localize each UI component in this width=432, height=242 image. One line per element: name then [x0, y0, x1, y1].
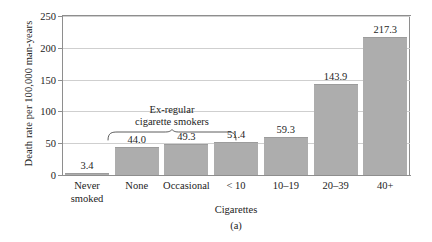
x-tick-never-smoked-line1: Never	[65, 180, 109, 193]
bar-none[interactable]	[115, 147, 159, 175]
bar-10-19[interactable]	[264, 137, 308, 175]
plot-area: 3.4 44.0 49.3 51.4 59.3 143.9	[62, 16, 410, 175]
x-tick-occasional: Occasional	[160, 180, 212, 193]
x-tick-10-19-line1: 10–19	[264, 180, 308, 193]
x-tick-10-19: 10–19	[264, 180, 308, 193]
x-tick-under-10: < 10	[214, 180, 258, 193]
x-tick-none-line1: None	[115, 180, 159, 193]
x-tick-none: None	[115, 180, 159, 193]
y-tick-label-0: 0	[16, 170, 56, 181]
ex-regular-smokers-label-line2: cigarette smokers	[106, 116, 238, 128]
y-tick-label-50: 50	[16, 138, 56, 149]
y-tick-label-200: 200	[16, 42, 56, 53]
bar-slot-10-19: 59.3	[264, 16, 308, 175]
x-tick-40-plus: 40+	[363, 180, 407, 193]
bar-under-10[interactable]	[214, 142, 258, 175]
x-tick-never-smoked: Never smoked	[65, 180, 109, 205]
curly-brace-icon	[106, 129, 238, 141]
bar-40-plus[interactable]	[363, 37, 407, 175]
bar-slot-never-smoked: 3.4	[65, 16, 109, 175]
x-tick-20-39: 20–39	[314, 180, 358, 193]
bar-value-never-smoked: 3.4	[80, 160, 93, 171]
bar-chart-figure: Death rate per 100,000 man-years 250 200…	[0, 0, 432, 242]
ex-regular-smokers-label-line1: Ex-regular	[106, 104, 238, 116]
y-tick-label-250: 250	[16, 11, 56, 22]
x-axis-line	[62, 175, 411, 176]
bar-never-smoked[interactable]	[65, 173, 109, 175]
figure-caption: (a)	[62, 220, 410, 231]
bar-series: 3.4 44.0 49.3 51.4 59.3 143.9	[62, 16, 410, 175]
x-tick-20-39-line1: 20–39	[314, 180, 358, 193]
x-tick-under-10-line1: < 10	[214, 180, 258, 193]
bar-slot-occasional: 49.3	[164, 16, 208, 175]
x-axis-title: Cigarettes	[62, 204, 410, 215]
bar-occasional[interactable]	[164, 144, 208, 175]
bar-slot-none: 44.0	[115, 16, 159, 175]
bar-20-39[interactable]	[314, 84, 358, 176]
y-axis-title: Death rate per 100,000 man-years	[23, 4, 34, 184]
x-tick-occasional-line1: Occasional	[160, 180, 212, 193]
y-tick-label-150: 150	[16, 74, 56, 85]
bar-value-20-39: 143.9	[324, 71, 348, 82]
bar-slot-20-39: 143.9	[314, 16, 358, 175]
bar-slot-40-plus: 217.3	[363, 16, 407, 175]
bar-slot-under-10: 51.4	[214, 16, 258, 175]
y-tick-label-100: 100	[16, 106, 56, 117]
x-tick-40-plus-line1: 40+	[363, 180, 407, 193]
bar-value-40-plus: 217.3	[373, 24, 397, 35]
ex-regular-smokers-label: Ex-regular cigarette smokers	[106, 104, 238, 128]
ex-regular-smokers-annotation: Ex-regular cigarette smokers	[106, 104, 238, 141]
bar-value-10-19: 59.3	[277, 124, 295, 135]
